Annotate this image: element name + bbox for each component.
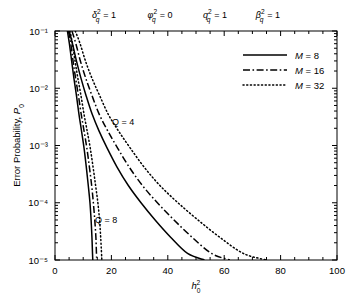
x-tick-label: 20 bbox=[106, 265, 117, 276]
top-annotation-1: φ2q = 0 bbox=[148, 8, 173, 24]
curve-q-8-m-8 bbox=[67, 31, 92, 260]
y-tick-label: 10⁻¹ bbox=[29, 26, 48, 37]
curve-q-8-m-32 bbox=[70, 31, 102, 260]
x-tick-label: 100 bbox=[329, 265, 345, 276]
y-tick-label: 10⁻² bbox=[29, 83, 48, 94]
legend-m8-label: M = 8 bbox=[295, 50, 319, 61]
curve-q-4-m-32 bbox=[75, 31, 266, 260]
annotation-q4: Q = 4 bbox=[112, 117, 134, 127]
y-tick-label: 10⁻³ bbox=[29, 140, 48, 151]
chart-figure: 02040608010010⁻¹10⁻²10⁻³10⁻⁴10⁻⁵Q = 4Q =… bbox=[0, 0, 354, 307]
top-annotation-2: q2q = 1 bbox=[203, 8, 227, 24]
annotation-q8: Q = 8 bbox=[95, 215, 117, 225]
legend-m32-label: M = 32 bbox=[295, 80, 324, 91]
x-tick-label: 40 bbox=[163, 265, 174, 276]
y-tick-label: 10⁻⁴ bbox=[28, 197, 48, 208]
top-annotation-3: β2q = 1 bbox=[255, 8, 280, 24]
y-axis-label: Error Probability, P0 bbox=[11, 104, 25, 187]
x-tick-label: 80 bbox=[275, 265, 286, 276]
legend-m16-label: M = 16 bbox=[295, 65, 324, 76]
x-axis-label: h02 bbox=[192, 279, 201, 294]
x-tick-label: 0 bbox=[52, 265, 57, 276]
error-probability-chart: 02040608010010⁻¹10⁻²10⁻³10⁻⁴10⁻⁵Q = 4Q =… bbox=[0, 0, 354, 307]
top-annotation-0: δ2q = 1 bbox=[92, 8, 116, 24]
y-tick-label: 10⁻⁵ bbox=[28, 255, 48, 266]
x-tick-label: 60 bbox=[219, 265, 230, 276]
